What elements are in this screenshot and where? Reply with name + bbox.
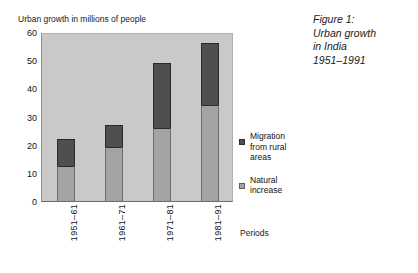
y-tick-label: 20 xyxy=(27,141,37,151)
legend-label: Migrationfrom ruralareas xyxy=(250,131,319,163)
bar-group xyxy=(153,63,171,201)
legend-swatch-icon xyxy=(239,183,245,189)
bar-segment-migration xyxy=(153,63,171,128)
bars-container xyxy=(42,34,232,201)
y-tick-label: 40 xyxy=(27,84,37,94)
bar-group xyxy=(201,43,219,201)
caption-line: Urban growth xyxy=(313,27,413,41)
bar-segment-natural xyxy=(201,105,219,201)
y-tick-label: 0 xyxy=(32,197,37,207)
bar-group xyxy=(105,125,123,201)
x-tick-label: 1951–61 xyxy=(69,204,79,241)
bar-segment-natural xyxy=(153,128,171,201)
chart-legend: Migrationfrom ruralareasNaturalincrease xyxy=(239,131,319,208)
x-tick-label: 1961–71 xyxy=(117,204,127,241)
y-tick-label: 30 xyxy=(27,113,37,123)
y-tick-label: 50 xyxy=(27,56,37,66)
x-axis-title: Periods xyxy=(240,228,269,238)
figure-caption: Figure 1:Urban growthin India1951–1991 xyxy=(313,13,413,67)
bar-segment-migration xyxy=(201,43,219,105)
caption-line: in India xyxy=(313,40,413,54)
legend-label: Naturalincrease xyxy=(250,175,319,196)
bar-segment-migration xyxy=(105,125,123,148)
legend-swatch-icon xyxy=(239,139,245,145)
bar-segment-migration xyxy=(57,139,75,166)
chart-plot-area xyxy=(41,33,233,202)
legend-entry: Naturalincrease xyxy=(239,175,319,196)
cut-off-text-row: · ··· · · ·· ·· xyxy=(0,0,418,5)
y-tick-label: 60 xyxy=(27,28,37,38)
y-tick-label: 10 xyxy=(27,169,37,179)
bar-segment-natural xyxy=(105,147,123,201)
legend-entry: Migrationfrom ruralareas xyxy=(239,131,319,163)
y-axis-tick-labels: 0102030405060 xyxy=(17,33,37,202)
caption-line: Figure 1: xyxy=(313,13,413,27)
bar-segment-natural xyxy=(57,166,75,201)
x-tick-label: 1981–91 xyxy=(213,204,223,241)
y-axis-title: Urban growth in millions of people xyxy=(18,14,146,24)
x-axis-tick-labels: 1951–611961–711971–811981–91 xyxy=(41,204,233,264)
bar-group xyxy=(57,139,75,201)
x-tick-label: 1971–81 xyxy=(165,204,175,241)
caption-line: 1951–1991 xyxy=(313,54,413,68)
